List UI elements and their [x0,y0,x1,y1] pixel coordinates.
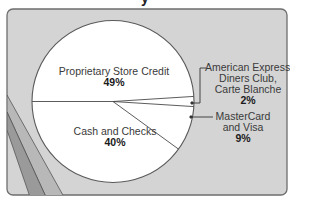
label-store-credit-pct: 49% [50,77,178,88]
label-cash-pct: 40% [65,137,165,148]
label-amex: American Express, Diners Club, Carte Bla… [205,62,290,106]
label-cash: Cash and Checks 40% [65,126,165,148]
label-store-credit: Proprietary Store Credit 49% [50,66,178,88]
label-amex-pct: 2% [205,95,290,106]
label-mastercard-pct: 9% [210,133,276,144]
label-mastercard: MasterCard and Visa 9% [210,111,276,144]
pie [32,21,194,183]
